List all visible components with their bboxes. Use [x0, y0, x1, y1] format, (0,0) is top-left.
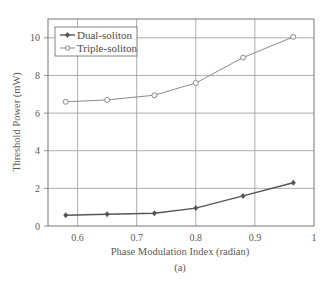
x-tick-label: 0.7	[130, 232, 143, 243]
legend-triple-label: Triple-soliton	[77, 42, 138, 54]
diamond-marker-icon	[291, 180, 296, 186]
circle-marker-icon	[63, 99, 68, 104]
diamond-marker-icon	[63, 212, 68, 218]
diamond-marker-icon	[152, 210, 157, 216]
circle-marker-icon	[65, 46, 70, 51]
y-tick-label: 0	[35, 221, 40, 232]
y-tick-label: 8	[35, 70, 40, 81]
circle-marker-icon	[241, 55, 246, 60]
diamond-marker-icon	[241, 193, 246, 199]
x-axis-ticks: 0.60.70.80.91	[71, 232, 316, 243]
legend-dual-label: Dual-soliton	[77, 29, 132, 41]
line-chart: 0246810 0.60.70.80.91 Phase Modulation I…	[0, 0, 333, 286]
circle-marker-icon	[193, 80, 198, 85]
circle-marker-icon	[105, 97, 110, 102]
diamond-marker-icon	[105, 211, 110, 217]
y-tick-label: 2	[35, 183, 40, 194]
circle-marker-icon	[291, 34, 296, 39]
data-series	[63, 34, 296, 218]
x-tick-label: 0.8	[190, 232, 203, 243]
x-tick-label: 0.6	[71, 232, 84, 243]
y-axis-label: Threshold Power (mW)	[11, 72, 23, 172]
y-tick-label: 4	[35, 145, 40, 156]
x-tick-label: 0.9	[249, 232, 262, 243]
x-axis-label: Phase Modulation Index (radian)	[111, 246, 250, 258]
y-axis-ticks: 0246810	[30, 32, 48, 231]
figure-caption: (a)	[174, 262, 186, 274]
series-line-0	[66, 183, 294, 216]
diamond-marker-icon	[193, 205, 198, 211]
y-tick-label: 6	[35, 108, 40, 119]
y-tick-label: 10	[30, 32, 40, 43]
x-tick-label: 1	[312, 232, 317, 243]
circle-marker-icon	[152, 93, 157, 98]
legend: Dual-soliton Triple-soliton	[55, 27, 138, 56]
